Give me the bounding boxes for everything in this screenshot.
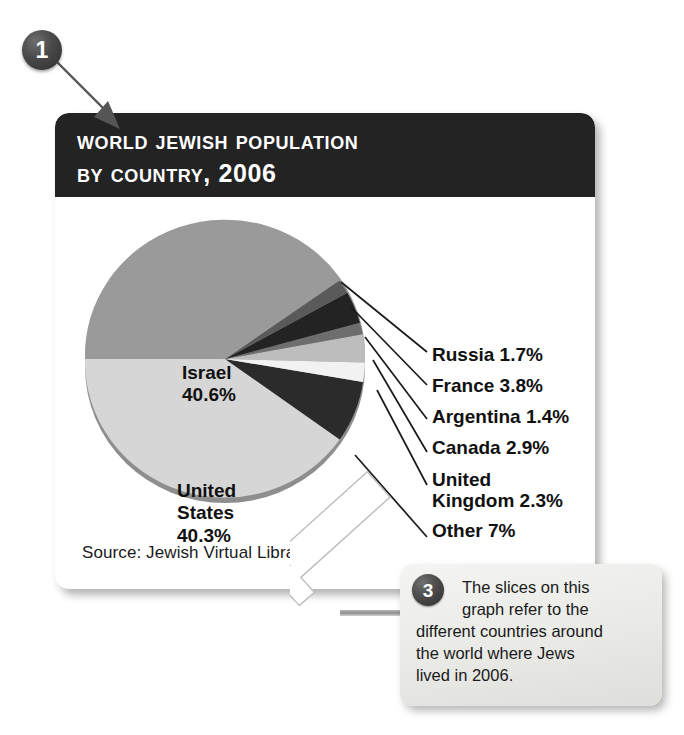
legend-item-other: Other 7% <box>432 521 595 540</box>
callout-run-4: the world where Jews <box>416 644 575 662</box>
callout-run-2: graph refer to the <box>462 600 589 618</box>
slice-label-israel: Israel 40.6% <box>182 362 236 407</box>
callout-text: The slices on thisgraph refer to thediff… <box>416 576 648 687</box>
legend-item-canada: Canada 2.9% <box>432 438 595 457</box>
legend-item-united-kingdom: United Kingdom 2.3% <box>432 469 595 512</box>
legend-item-france: France 3.8% <box>432 376 595 395</box>
pie-legend: Russia 1.7% France 3.8% Argentina 1.4% C… <box>432 345 595 552</box>
chart-source: Source: Jewish Virtual Library <box>82 543 310 563</box>
callout-box-three: 3 The slices on thisgraph refer to thedi… <box>400 564 662 706</box>
callout-run-5: lived in 2006. <box>416 666 513 684</box>
legend-item-argentina: Argentina 1.4% <box>432 407 595 426</box>
marker-one-badge: 1 <box>22 30 62 70</box>
slice-label-united-states: United States 40.3% <box>177 480 236 547</box>
callout-run-1: The slices on this <box>462 578 589 596</box>
legend-item-russia: Russia 1.7% <box>432 345 595 364</box>
marker-one-arrow <box>50 55 140 135</box>
marker-three-number: 3 <box>423 581 434 600</box>
callout-run-3: different countries around <box>416 622 603 640</box>
marker-three-badge: 3 <box>412 574 444 606</box>
chart-title-line-1: World Jewish Population <box>77 124 595 157</box>
callout-pointer-arrow <box>290 455 410 615</box>
marker-one-number: 1 <box>36 39 49 62</box>
chart-title-line-2: By Country, 2006 <box>77 157 595 190</box>
